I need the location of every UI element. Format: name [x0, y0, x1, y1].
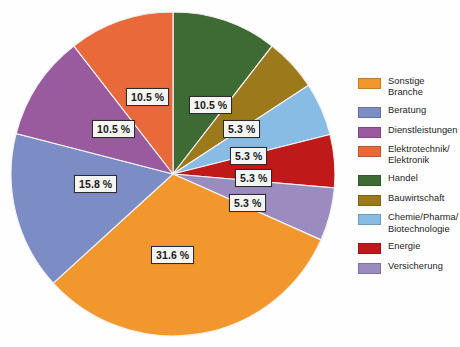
legend-item-label: Beratung	[388, 105, 426, 116]
slice-label-handel: 10.5 %	[189, 96, 232, 114]
pie-chart-figure: 10.5 % 10.5 % 5.3 % 5.3 % 5.3 % 5.3 % 31…	[0, 0, 460, 347]
legend-item[interactable]: Handel	[358, 173, 458, 186]
legend-item-label: Bauwirtschaft	[388, 193, 444, 204]
legend-item[interactable]: Chemie/Pharma/Biotechnologie	[358, 212, 458, 235]
slice-label-chemie: 5.3 %	[230, 147, 267, 165]
legend-item[interactable]: Sonstige Branche	[358, 76, 458, 99]
legend-item[interactable]: Beratung	[358, 105, 458, 118]
legend-swatch-icon	[358, 78, 381, 89]
legend-swatch-icon	[358, 175, 381, 186]
legend-item[interactable]: Dienstleistungen	[358, 125, 458, 138]
slice-label-energie: 5.3 %	[235, 169, 272, 187]
slice-label-bauwirtschaft: 5.3 %	[223, 120, 260, 138]
chart-legend: Sonstige BrancheBeratungDienstleistungen…	[358, 76, 458, 280]
legend-item-label: Dienstleistungen	[388, 125, 458, 136]
pie-slice-group	[11, 12, 335, 336]
pie-chart-svg	[8, 8, 338, 340]
legend-swatch-icon	[358, 214, 381, 225]
legend-item[interactable]: Versicherung	[358, 261, 458, 274]
legend-item-label: Handel	[388, 173, 418, 184]
legend-item[interactable]: Bauwirtschaft	[358, 193, 458, 206]
legend-item[interactable]: Energie	[358, 241, 458, 254]
legend-item-label: Versicherung	[388, 261, 443, 272]
slice-label-elektrotechnik: 10.5 %	[126, 88, 169, 106]
legend-item-label: Energie	[388, 241, 420, 252]
legend-swatch-icon	[358, 127, 381, 138]
legend-swatch-icon	[358, 263, 381, 274]
slice-label-versicherung: 5.3 %	[229, 194, 266, 212]
legend-swatch-icon	[358, 107, 381, 118]
legend-swatch-icon	[358, 146, 381, 157]
legend-item[interactable]: Elektrotechnik/Elektronik	[358, 144, 458, 167]
slice-label-dienstleistungen: 10.5 %	[92, 120, 135, 138]
legend-item-label: Elektrotechnik/Elektronik	[388, 144, 450, 167]
legend-swatch-icon	[358, 195, 381, 206]
slice-label-beratung: 15.8 %	[74, 175, 117, 193]
legend-item-label: Sonstige Branche	[388, 76, 458, 99]
slice-label-sonstige: 31.6 %	[151, 246, 194, 264]
legend-item-label: Chemie/Pharma/Biotechnologie	[388, 212, 458, 235]
legend-swatch-icon	[358, 243, 381, 254]
pie-chart-area: 10.5 % 10.5 % 5.3 % 5.3 % 5.3 % 5.3 % 31…	[8, 8, 338, 340]
